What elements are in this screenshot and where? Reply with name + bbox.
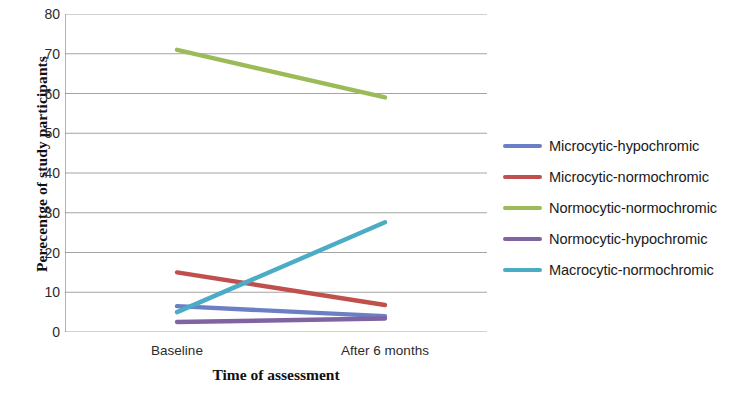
legend-label: Microcytic-normochromic [549, 169, 709, 185]
gridlines [65, 14, 487, 332]
y-axis-tick-label: 20 [26, 246, 60, 260]
x-axis-tick-label: Baseline [151, 343, 203, 358]
legend-label: Normocytic-normochromic [549, 200, 717, 216]
y-axis-tick-label: 60 [26, 87, 60, 101]
y-axis-tick-label: 30 [26, 206, 60, 220]
legend-color-swatch [503, 206, 542, 210]
legend-item[interactable]: Macrocytic-normochromic [503, 254, 748, 285]
x-axis-tick-label: After 6 months [341, 343, 429, 358]
plot-area [65, 14, 487, 332]
legend-item[interactable]: Normocytic-normochromic [503, 192, 748, 223]
legend-color-swatch [503, 268, 542, 272]
series-lines [177, 50, 385, 322]
chart-legend: Microcytic-hypochromicMicrocytic-normoch… [503, 130, 748, 285]
legend-item[interactable]: Microcytic-normochromic [503, 161, 748, 192]
y-axis-tick-label: 40 [26, 166, 60, 180]
plot-svg [65, 14, 487, 332]
y-axis-tick-label: 80 [26, 7, 60, 21]
series-line [177, 306, 385, 316]
series-line [177, 50, 385, 98]
series-line [177, 318, 385, 322]
y-axis-tick-label: 10 [26, 285, 60, 299]
y-axis-tick-label: 70 [26, 47, 60, 61]
legend-color-swatch [503, 237, 542, 241]
legend-label: Macrocytic-normochromic [549, 262, 714, 278]
line-chart-figure: Perecentge of study participants 0102030… [0, 0, 748, 393]
legend-label: Normocytic-hypochromic [549, 231, 707, 247]
legend-item[interactable]: Normocytic-hypochromic [503, 223, 748, 254]
y-axis-tick-labels: 01020304050607080 [26, 0, 60, 393]
x-axis-title: Time of assessment [65, 366, 487, 384]
legend-item[interactable]: Microcytic-hypochromic [503, 130, 748, 161]
legend-color-swatch [503, 175, 542, 179]
y-axis-tick-label: 0 [26, 325, 60, 339]
legend-label: Microcytic-hypochromic [549, 138, 699, 154]
legend-color-swatch [503, 144, 542, 148]
y-axis-tick-label: 50 [26, 126, 60, 140]
